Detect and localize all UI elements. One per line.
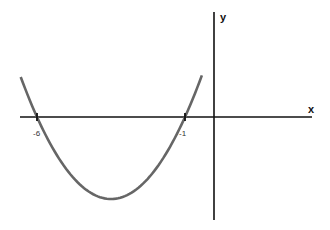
y-axis-label: y	[220, 11, 227, 23]
tick-label-neg6: -6	[33, 129, 41, 138]
tick-label-neg1: -1	[179, 129, 187, 138]
parabola-chart: -6 -1 x y	[0, 0, 330, 230]
parabola-curve	[21, 75, 202, 199]
x-axis-label: x	[308, 103, 315, 115]
